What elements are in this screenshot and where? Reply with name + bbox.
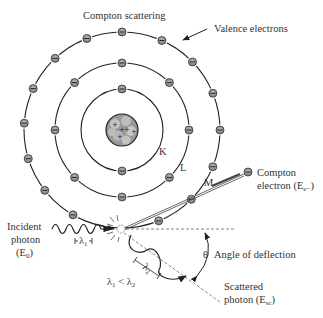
proton-plus-icon: +: [131, 128, 137, 136]
scattered-dashed-line: [124, 233, 220, 302]
lambda2-label: λ2: [140, 261, 155, 277]
electron-minus-icon: [28, 83, 39, 94]
compton-electron-path: [124, 174, 244, 228]
electron-minus-icon: [117, 84, 128, 95]
diagram-title: Compton scattering: [83, 10, 166, 21]
proton-plus-icon: +: [124, 126, 130, 134]
proton-plus-icon: +: [112, 121, 118, 129]
electron-minus-icon: [68, 209, 79, 220]
compton-label-line2: electron (Ee−): [257, 180, 314, 193]
theta-label: θ: [203, 249, 208, 260]
electron-minus-icon: [164, 172, 175, 183]
electron-minus-icon: [39, 185, 50, 196]
scattered-label-line2: photon (Esc): [224, 294, 276, 307]
incident-label-line2: photon: [11, 234, 41, 245]
electron-minus-icon: [117, 27, 128, 38]
electron-minus-icon: [23, 153, 34, 164]
electron-minus-icon: [207, 88, 218, 99]
electron-minus-icon: [50, 125, 61, 136]
scattered-label-line1: Scattered: [224, 281, 264, 292]
vacancy-circle: [117, 225, 125, 233]
compton-label-line1: Compton: [257, 167, 297, 178]
electron-minus-icon: [215, 125, 226, 136]
electron-minus-icon: [69, 77, 80, 88]
valence-electrons-label: Valence electrons: [214, 23, 288, 34]
electron-minus-icon: [184, 125, 195, 136]
electron-minus-icon: [69, 172, 80, 183]
electron-minus-icon: [117, 192, 128, 203]
proton-plus-icon: +: [117, 133, 123, 141]
compton-electron: [244, 168, 252, 176]
compton-diagram: Compton scattering Valence electrons + +…: [0, 0, 323, 318]
electron-minus-icon: [156, 35, 167, 46]
diagram-svg: Compton scattering Valence electrons + +…: [0, 0, 323, 318]
valence-arrow: [183, 29, 207, 40]
incident-label-line1: Incident: [7, 221, 41, 232]
shell-k-label: K: [159, 146, 167, 157]
lambda-relation: λ1 < λ2: [107, 276, 136, 289]
incident-label-line3: (E0): [16, 247, 33, 260]
angle-label: Angle of deflection: [214, 249, 296, 260]
shell-l-label: L: [180, 162, 186, 173]
electron-minus-icon: [117, 58, 128, 69]
electron-minus-icon: [81, 33, 92, 44]
electron-minus-icon: [50, 53, 61, 64]
electron-minus-icon: [117, 166, 128, 177]
electron-minus-icon: [19, 118, 30, 129]
electron-minus-icon: [164, 77, 175, 88]
nucleus: + + + + +: [106, 114, 138, 146]
electron-minus-icon: [153, 215, 164, 226]
electron-minus-icon: [207, 161, 218, 172]
electron-minus-icon: [187, 56, 198, 67]
